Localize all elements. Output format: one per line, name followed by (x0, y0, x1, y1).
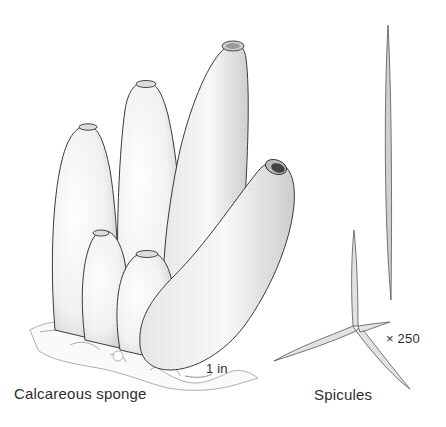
spicule-monaxon (385, 25, 391, 300)
sponge-scale-label: 1 in (206, 361, 228, 376)
illustration-canvas: 1 in × 250 Calcareous sponge Spicules (0, 0, 446, 427)
spicule-magnification-label: × 250 (386, 331, 420, 346)
spicules-caption: Spicules (314, 386, 372, 403)
sponge-caption: Calcareous sponge (14, 385, 147, 402)
